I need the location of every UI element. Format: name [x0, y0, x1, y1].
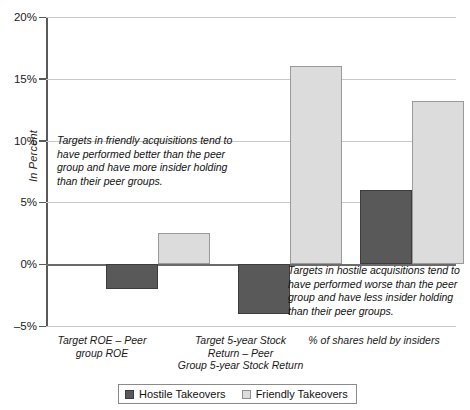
bar-hostile-2	[360, 190, 412, 264]
category-label-line: Group 5-year Stock Return	[148, 359, 333, 372]
y-tick-15	[39, 78, 46, 80]
bar-friendly-0	[158, 233, 210, 264]
legend-label-friendly: Friendly Takeovers	[256, 388, 348, 400]
bar-friendly-2	[412, 101, 464, 264]
category-label-line: % of shares held by insiders	[286, 334, 462, 347]
gridline--5	[46, 326, 456, 327]
legend-label-hostile: Hostile Takeovers	[139, 388, 226, 400]
legend-swatch-friendly	[242, 390, 251, 399]
y-tick-0	[39, 264, 46, 266]
category-label-2: % of shares held by insiders	[286, 334, 462, 347]
y-tick-label-15: 15%	[14, 73, 37, 85]
y-tick-20	[39, 17, 46, 19]
gridline-15	[46, 79, 456, 80]
chart-legend: Hostile Takeovers Friendly Takeovers	[118, 384, 357, 404]
bar-chart: In Percent –5%0%5%10%15%20% Hostile Take…	[0, 0, 470, 410]
legend-item-friendly: Friendly Takeovers	[242, 388, 348, 400]
bar-friendly-1	[290, 66, 342, 264]
y-tick-label-20: 20%	[14, 11, 37, 23]
y-tick-10	[39, 140, 46, 142]
y-tick-label-10: 10%	[14, 135, 37, 147]
annotation-friendly-note: Targets in friendly acquisitions tend to…	[57, 134, 243, 188]
y-axis-title: In Percent	[27, 101, 39, 211]
legend-swatch-hostile	[125, 390, 134, 399]
legend-item-hostile: Hostile Takeovers	[125, 388, 226, 400]
category-label-line: Return – Peer	[148, 347, 333, 360]
gridline-20	[46, 17, 456, 18]
annotation-hostile-note: Targets in hostile acquisitions tend to …	[288, 264, 468, 318]
y-tick-5	[39, 202, 46, 204]
y-tick-label-5: 5%	[20, 196, 37, 208]
y-tick--5	[39, 326, 46, 328]
y-tick-label-0: 0%	[20, 258, 37, 270]
y-tick-label--5: –5%	[14, 320, 37, 332]
bar-hostile-1	[238, 264, 290, 313]
bar-hostile-0	[106, 264, 158, 289]
